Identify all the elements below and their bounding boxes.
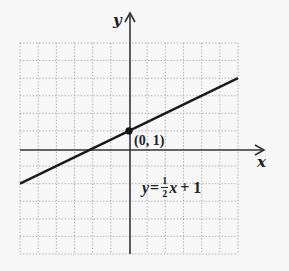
fraction-denominator: 2 [162, 189, 167, 199]
equation-lhs: y [142, 180, 149, 196]
x-axis-label: x [257, 155, 266, 170]
equation-fraction: 1 2 [161, 176, 168, 199]
equation-rest: + 1 [180, 180, 201, 196]
intercept-point [125, 127, 132, 134]
equation-variable: x [169, 180, 177, 196]
y-axis-label: y [113, 13, 122, 28]
fraction-numerator: 1 [162, 176, 167, 186]
equation-equals: = [150, 180, 159, 196]
equation-label: y = 1 2 x + 1 [142, 176, 201, 199]
point-label: (0, 1) [134, 134, 164, 148]
grid-lines [20, 43, 238, 254]
